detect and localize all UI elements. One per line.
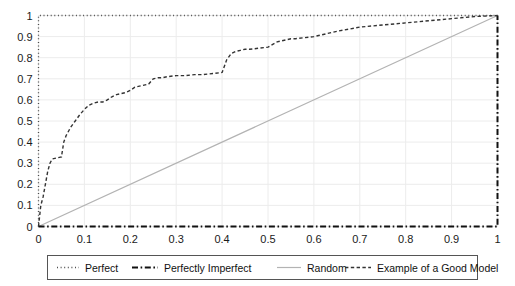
x-tick-label: 0.6 <box>306 233 321 245</box>
y-tick-label: 0.7 <box>17 73 32 85</box>
y-tick-label: 0.8 <box>17 52 32 64</box>
legend-label-example-of-a-good-model[interactable]: Example of a Good Model <box>377 262 498 274</box>
y-tick-label: 0.2 <box>17 178 32 190</box>
chart-legend[interactable]: PerfectPerfectly ImperfectRandomExample … <box>48 256 499 280</box>
y-tick-label: 0 <box>26 221 32 233</box>
x-tick-label: 0.8 <box>398 233 413 245</box>
y-tick-label: 0.3 <box>17 157 32 169</box>
x-tick-label: 0.3 <box>169 233 184 245</box>
y-tick-label: 0.4 <box>17 136 32 148</box>
x-tick-label: 0.2 <box>123 233 138 245</box>
legend-label-perfect[interactable]: Perfect <box>85 262 118 274</box>
y-tick-label: 0.5 <box>17 115 32 127</box>
x-tick-label: 0.4 <box>214 233 229 245</box>
x-tick-label: 0.1 <box>77 233 92 245</box>
x-tick-label: 1 <box>494 233 500 245</box>
x-tick-label: 0.9 <box>444 233 459 245</box>
x-tick-label: 0.5 <box>260 233 275 245</box>
roc-chart-figure: 00.10.20.30.40.50.60.70.80.91 00.10.20.3… <box>0 0 515 286</box>
x-tick-label: 0 <box>35 233 41 245</box>
chart-canvas: 00.10.20.30.40.50.60.70.80.91 00.10.20.3… <box>0 0 515 286</box>
legend-label-random[interactable]: Random <box>307 262 347 274</box>
x-tick-label: 0.7 <box>352 233 367 245</box>
y-tick-label: 0.1 <box>17 199 32 211</box>
y-tick-label: 1 <box>26 10 32 22</box>
legend-label-perfectly-imperfect[interactable]: Perfectly Imperfect <box>164 262 252 274</box>
y-tick-label: 0.6 <box>17 94 32 106</box>
y-tick-label: 0.9 <box>17 31 32 43</box>
